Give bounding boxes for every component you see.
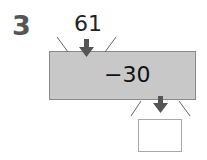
output-line-left-icon <box>131 101 141 116</box>
funnel-line-left-icon <box>57 37 68 52</box>
funnel-line-right-icon <box>105 37 116 52</box>
down-arrow-icon <box>79 39 94 57</box>
down-arrow-icon <box>153 96 168 113</box>
output-line-right-icon <box>179 101 190 116</box>
answer-box[interactable] <box>138 119 182 152</box>
